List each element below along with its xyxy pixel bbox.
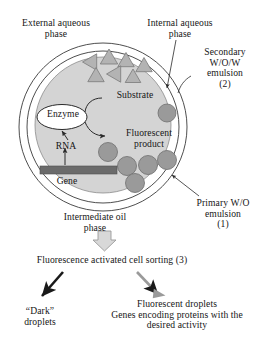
process-block-arrow (93, 231, 116, 251)
intermediate-oil-phase-label: Intermediate oil phase (48, 212, 142, 233)
fluorescent-droplets-label: Fluorescent droplets Genes encoding prot… (96, 299, 258, 331)
primary-emulsion-leader (172, 175, 199, 196)
primary-emulsion-label: Primary W/O emulsion (1) (188, 198, 258, 230)
facs-step-label: Fluorescence activated cell sorting (3) (20, 255, 204, 266)
emulsion-diagram-figure: External aqueous phase Internal aqueous … (0, 0, 261, 347)
substrate-label: Substrate (104, 90, 166, 101)
rna-label: RNA (48, 141, 84, 152)
product-droplet (139, 156, 158, 175)
internal-aqueous-phase-label: Internal aqueous phase (134, 18, 226, 39)
enzyme-label: Enzyme (38, 109, 88, 120)
external-aqueous-phase-label: External aqueous phase (4, 18, 108, 39)
product-droplet (158, 104, 176, 122)
secondary-emulsion-leader (178, 76, 191, 93)
dark-droplets-label: “Dark” droplets (14, 306, 66, 327)
product-droplet (118, 157, 137, 176)
secondary-emulsion-label: Secondary W/O/W emulsion (2) (192, 47, 258, 90)
product-droplet (126, 174, 145, 193)
gene-label: Gene (48, 176, 86, 187)
product-droplet (158, 151, 177, 170)
gene-bar (40, 166, 117, 174)
internal-phase-leader (167, 40, 176, 88)
fluorescent-product-label: Fluorescent product (113, 128, 185, 149)
sort-to-dark-arrow (42, 272, 63, 296)
